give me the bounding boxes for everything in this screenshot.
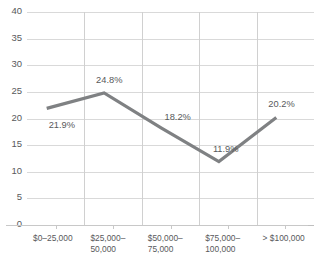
data-point-label: 18.2% bbox=[165, 112, 191, 122]
data-point-label: 11.9% bbox=[213, 144, 239, 154]
line-chart: 0510152025303540 $0–25,000$25,000– 50,00… bbox=[0, 0, 314, 258]
data-point-label: 20.2% bbox=[268, 99, 294, 109]
data-point-label: 21.9% bbox=[49, 120, 75, 130]
series-line-layer bbox=[0, 0, 314, 258]
series-polyline bbox=[47, 93, 277, 162]
data-point-label: 24.8% bbox=[96, 75, 122, 85]
